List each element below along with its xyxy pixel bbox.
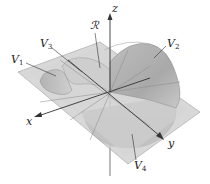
v4-label-base: V	[134, 159, 142, 172]
v4-label-sub: 4	[142, 165, 146, 173]
v4-label: V4	[134, 160, 146, 173]
z-axis-label: z	[112, 3, 118, 14]
v2-label-base: V	[167, 37, 175, 50]
v2-label-sub: 2	[175, 43, 179, 51]
v1-label-sub: 1	[19, 59, 23, 67]
x-axis-label: x	[26, 116, 32, 127]
v1-label: V1	[11, 54, 23, 67]
v2-label: V2	[167, 38, 179, 51]
v3-label-base: V	[40, 37, 48, 50]
region-label: ℛ	[90, 20, 99, 31]
v1-label-base: V	[11, 53, 19, 66]
v3-label-sub: 3	[48, 43, 52, 51]
v3-label: V3	[40, 38, 52, 51]
x-axis-arrowhead	[34, 112, 42, 117]
diagram-canvas	[0, 0, 210, 184]
diagram-figure: z x y ℛ V1 V3 V2 V4	[0, 0, 210, 184]
y-axis-label: y	[168, 138, 174, 149]
